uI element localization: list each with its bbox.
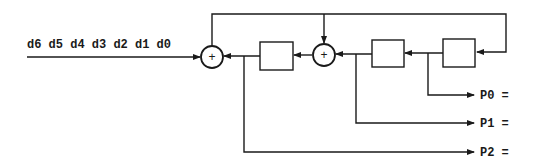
- register-2: [260, 42, 293, 70]
- lfsr-diagram: d6 d5 d4 d3 d2 d1 d0 + + P0 = P1 = P2 =: [0, 0, 535, 168]
- xor-left: +: [201, 46, 223, 68]
- plus-icon: +: [320, 48, 327, 62]
- output-p2-label: P2 =: [480, 146, 509, 160]
- register-1: [372, 40, 404, 67]
- output-p0-label: P0 =: [480, 89, 509, 103]
- register-0: [443, 39, 475, 67]
- plus-icon: +: [208, 50, 215, 64]
- xor-middle: +: [313, 44, 335, 66]
- input-bits-label: d6 d5 d4 d3 d2 d1 d0: [27, 38, 171, 52]
- output-p1-label: P1 =: [480, 117, 509, 131]
